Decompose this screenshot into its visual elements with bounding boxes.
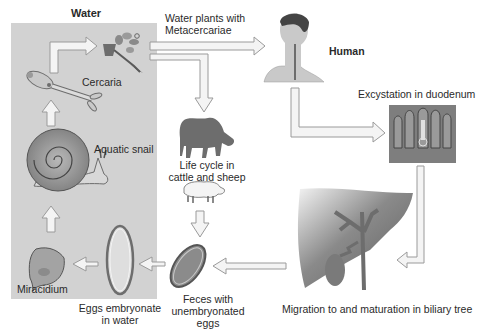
feces-label-line2: unembryonated <box>168 305 248 317</box>
migration-label: Migration to and maturation in biliary t… <box>282 303 472 315</box>
unembryonated-egg-illustration <box>164 239 213 293</box>
sheep-illustration <box>184 182 225 203</box>
arrow-eggs-to-miracidium <box>73 257 98 271</box>
duodenum-illustration <box>389 105 456 163</box>
snail-label: Aquatic snail <box>94 143 154 155</box>
feces-label-line3: eggs <box>168 317 248 329</box>
arrow-plant-to-human <box>150 37 265 55</box>
eggs-water-label-line1: Eggs embryonate <box>74 302 166 314</box>
embryonating-egg-illustration <box>107 226 133 294</box>
arrow-migration-to-feces <box>213 258 286 274</box>
excystation-label: Excystation in duodenum <box>358 88 475 100</box>
cattle-label-line1: Life cycle in <box>167 159 247 171</box>
arrow-plant-to-cattle <box>150 54 213 112</box>
cattle-illustration <box>180 118 234 158</box>
arrow-sheep-to-feces <box>191 211 209 237</box>
metacercariae-label-line2: Metacercariae <box>165 24 245 36</box>
eggs-water-label-line2: in water <box>74 314 166 326</box>
aquatic-snail-illustration <box>27 129 108 191</box>
cattle-label: Life cycle in cattle and sheep <box>167 159 247 183</box>
arrow-cercaria-to-plant <box>50 37 97 73</box>
feces-label: Feces with unembryonated eggs <box>168 293 248 329</box>
arrow-miracidium-to-snail <box>42 206 60 232</box>
metacercariae-label-line1: Water plants with <box>165 12 245 24</box>
feces-label-line1: Feces with <box>168 293 248 305</box>
human-illustration <box>264 13 324 82</box>
miracidium-label: Miracidium <box>17 283 68 295</box>
eggs-water-label: Eggs embryonate in water <box>74 302 166 326</box>
arrow-snail-to-cercaria <box>42 100 60 126</box>
water-plant-illustration <box>103 33 143 74</box>
cercaria-illustration <box>24 68 102 112</box>
arrow-feces-to-eggs <box>139 257 165 271</box>
human-label: Human <box>329 45 365 57</box>
cattle-label-line2: cattle and sheep <box>167 171 247 183</box>
metacercariae-label: Water plants with Metacercariae <box>165 12 245 36</box>
liver-biliary-illustration <box>298 188 413 290</box>
cercaria-label: Cercaria <box>82 76 122 88</box>
